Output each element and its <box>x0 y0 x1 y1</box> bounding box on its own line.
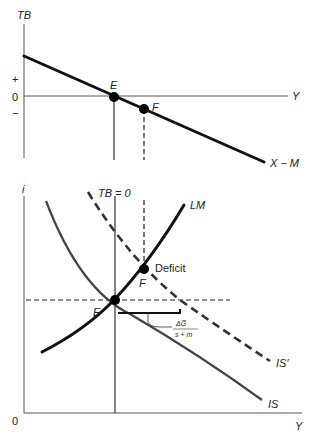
top-panel: TB Y + 0 − X − M E F <box>12 9 300 169</box>
bottom-panel: i 0 Y TB = 0 IS IS′ LM ΔG̅ s + m E F Def… <box>12 183 303 432</box>
i-axis-label: i <box>22 183 25 195</box>
is-label: IS <box>268 398 279 410</box>
origin-label: 0 <box>12 415 18 427</box>
point-f-label-bottom: F <box>139 277 147 289</box>
multiplier-bracket <box>118 309 180 313</box>
point-f-top <box>139 104 149 114</box>
plus-label: + <box>12 73 18 85</box>
is-prime-label: IS′ <box>276 357 289 369</box>
y-axis-label-top: Y <box>292 90 300 102</box>
lm-label: LM <box>190 199 206 211</box>
zero-label: 0 <box>12 91 18 103</box>
point-e-top <box>109 92 119 102</box>
trade-balance-islm-diagram: TB Y + 0 − X − M E F i 0 Y TB = 0 IS IS′ <box>0 0 318 436</box>
y-axis-label-bottom: Y <box>295 420 303 432</box>
multiplier-numerator: ΔG̅ <box>175 320 187 327</box>
point-f-bottom <box>139 264 149 274</box>
point-e-label-top: E <box>110 79 118 91</box>
tb-zero-label: TB = 0 <box>98 187 132 199</box>
x-minus-m-label: X − M <box>269 157 300 169</box>
point-e-label-bottom: E <box>93 306 101 318</box>
multiplier-leader <box>148 313 172 327</box>
deficit-label: Deficit <box>155 262 186 274</box>
point-f-label-top: F <box>152 101 160 113</box>
point-e-bottom <box>110 295 120 305</box>
minus-label: − <box>12 107 18 119</box>
tb-axis-label: TB <box>17 9 31 21</box>
multiplier-denominator: s + m <box>175 331 192 338</box>
